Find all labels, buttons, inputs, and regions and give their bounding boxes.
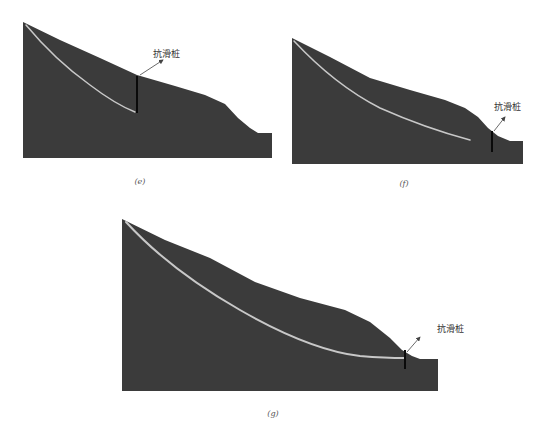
slope-body xyxy=(23,22,272,158)
pile-label: 抗滑桩 xyxy=(153,48,180,59)
panel-f: 抗滑桩(f) xyxy=(292,38,523,188)
panel-caption: (g) xyxy=(267,409,278,418)
panel-caption: (f) xyxy=(399,179,408,188)
pointer-arrow-icon xyxy=(494,117,505,131)
pile-label: 抗滑桩 xyxy=(437,323,464,334)
slope-body xyxy=(122,219,438,391)
pointer-arrow-icon xyxy=(407,337,420,352)
slope-body xyxy=(292,38,523,164)
slope-figure: 抗滑桩(e)抗滑桩(f)抗滑桩(g) xyxy=(0,0,541,428)
panel-e: 抗滑桩(e) xyxy=(23,22,272,186)
panel-g: 抗滑桩(g) xyxy=(122,219,464,418)
panel-caption: (e) xyxy=(135,177,146,186)
pile-label: 抗滑桩 xyxy=(494,101,521,112)
pointer-arrow-icon xyxy=(140,60,163,75)
